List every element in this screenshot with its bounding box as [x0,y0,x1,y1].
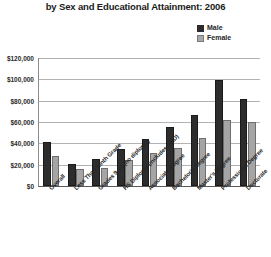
legend-item-male: Male [197,24,231,32]
chart-title: by Sex and Educational Attainment: 2006 [0,1,271,12]
y-axis-tick-label: $20,000 [11,161,35,168]
y-axis-tick-label: $60,000 [11,119,35,126]
bar-male [191,115,199,186]
y-axis-tick-label: $100,000 [7,76,34,83]
bar-group [64,58,89,186]
bar-male [68,164,76,186]
legend-label-female: Female [207,34,231,42]
bar-male [43,142,51,186]
x-axis-labels: OverallLess Than Ninth GradeGrades 9-12 … [0,187,271,257]
y-axis-tick-label: $80,000 [11,97,35,104]
chart-page: by Sex and Educational Attainment: 2006 … [0,0,271,257]
legend-label-male: Male [207,24,223,32]
y-axis-tick-label: $120,000 [7,55,34,62]
male-swatch-icon [197,25,204,32]
bar-group [39,58,64,186]
chart-legend: Male Female [197,24,231,42]
y-axis-tick-label: $40,000 [11,140,35,147]
y-axis-labels: $120,000$100,000$80,000$60,000$40,000$20… [0,58,36,186]
female-swatch-icon [197,35,204,42]
legend-item-female: Female [197,34,231,42]
